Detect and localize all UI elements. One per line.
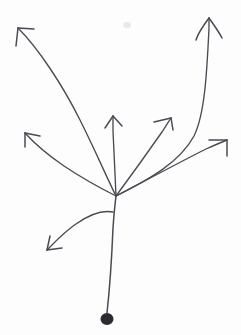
- sketch-canvas: [0, 0, 241, 335]
- branch-top-left-arrowhead-barb-b: [18, 28, 34, 29]
- branch-up-center: [105, 116, 122, 196]
- branch-up-center-arrowhead-barb-b: [113, 116, 122, 126]
- branch-up-right-line: [116, 118, 171, 196]
- branch-lower-left-line: [47, 212, 113, 251]
- branch-up-right: [116, 118, 173, 196]
- root-stem-line: [107, 196, 116, 313]
- origin-dot: [101, 313, 114, 325]
- branch-top-left: [16, 28, 116, 196]
- branch-far-right-arrowhead-barb-a: [196, 18, 209, 40]
- branch-left: [25, 133, 116, 196]
- branch-up-center-line: [113, 116, 116, 196]
- branch-far-right-curve-line: [116, 18, 209, 196]
- radiating-arrow-diagram: [0, 0, 241, 335]
- branch-top-left-line: [18, 28, 116, 196]
- branch-top-left-arrowhead-barb-a: [16, 28, 18, 46]
- branch-far-right-arrowhead-barb-b: [209, 18, 222, 38]
- branch-left-line: [25, 133, 116, 196]
- branch-up-center-arrowhead-barb-a: [105, 116, 113, 128]
- branch-up-right-arrowhead-barb-b: [171, 118, 173, 130]
- branch-lower-left: [47, 212, 113, 251]
- paper-smudge: [123, 22, 131, 28]
- branch-far-right-curve: [116, 18, 222, 196]
